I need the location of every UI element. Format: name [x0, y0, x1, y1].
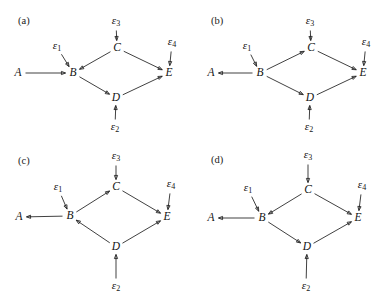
noise-symbol: ε	[54, 180, 58, 192]
noise-subscript: 1	[248, 187, 252, 196]
noise-subscript: 3	[310, 20, 314, 29]
node-a-D: D	[112, 92, 120, 104]
edge-D-to-E	[314, 222, 352, 244]
edge-B-to-D	[267, 76, 304, 94]
panel-b: (b)ABCDEε1ε2ε3ε4	[194, 0, 388, 149]
noise-c-e2: ε2	[112, 280, 121, 293]
edge-D-to-E	[317, 76, 356, 95]
noise-symbol: ε	[362, 35, 366, 47]
edge-C-to-E	[124, 51, 162, 70]
edge-B-to-C	[76, 191, 109, 212]
edge-C-to-B	[268, 194, 301, 214]
noise-a-e3: ε3	[112, 15, 121, 28]
noise-d-e1: ε1	[244, 182, 253, 195]
edge-B-to-D	[268, 222, 300, 243]
node-b-D: D	[306, 92, 314, 104]
noise-subscript: 1	[57, 45, 61, 54]
edge-e1-to-B	[251, 55, 257, 67]
arrowhead-C-to-E	[347, 211, 351, 214]
noise-d-e4: ε4	[358, 179, 367, 192]
node-c-A: A	[15, 211, 22, 223]
noise-b-e3: ε3	[306, 15, 315, 28]
node-c-C: C	[112, 181, 120, 193]
node-a-B: B	[69, 67, 76, 79]
node-b-C: C	[307, 42, 315, 54]
node-d-B: B	[258, 212, 265, 224]
noise-subscript: 1	[247, 45, 251, 54]
noise-b-e4: ε4	[362, 36, 371, 49]
noise-symbol: ε	[167, 177, 171, 189]
noise-symbol: ε	[112, 14, 116, 26]
noise-subscript: 1	[58, 186, 62, 195]
noise-b-e1: ε1	[243, 40, 252, 53]
noise-a-e2: ε2	[111, 121, 120, 134]
noise-symbol: ε	[302, 279, 306, 291]
dag-figure: (a)ABCDEε1ε2ε3ε4(b)ABCDEε1ε2ε3ε4(c)ABCDE…	[0, 0, 388, 298]
edge-D-to-E	[123, 76, 162, 95]
panel-d: (d)ABCDEε1ε2ε3ε4	[194, 149, 388, 298]
noise-a-e1: ε1	[53, 40, 62, 53]
edge-C-to-E	[122, 191, 160, 213]
node-a-C: C	[113, 42, 121, 54]
noise-subscript: 2	[115, 126, 119, 135]
arrowhead-B-to-D	[299, 91, 303, 94]
arrowhead-B-to-C	[300, 51, 304, 54]
noise-subscript: 2	[306, 285, 310, 294]
edge-C-to-E	[318, 51, 356, 70]
edge-C-to-E	[315, 194, 352, 215]
noise-subscript: 2	[309, 126, 313, 135]
node-a-A: A	[14, 67, 21, 79]
node-c-B: B	[66, 210, 73, 222]
noise-c-e4: ε4	[167, 178, 176, 191]
noise-subscript: 4	[172, 41, 176, 50]
node-c-D: D	[112, 241, 120, 253]
noise-symbol: ε	[305, 120, 309, 132]
edge-D-to-B	[76, 220, 110, 243]
node-d-C: C	[304, 184, 312, 196]
noise-subscript: 3	[308, 154, 312, 163]
noise-c-e1: ε1	[54, 181, 63, 194]
edge-e1-to-B	[61, 54, 69, 66]
edge-D-to-E	[122, 221, 160, 243]
panel-a: (a)ABCDEε1ε2ε3ε4	[0, 0, 194, 149]
noise-subscript: 4	[362, 184, 366, 193]
noise-symbol: ε	[111, 120, 115, 132]
arrowhead-D-to-E	[352, 76, 356, 79]
node-d-D: D	[303, 241, 311, 253]
noise-subscript: 3	[116, 155, 120, 164]
node-b-A: A	[207, 67, 214, 79]
edge-B-to-A	[27, 216, 63, 217]
panel-c: (c)ABCDEε1ε2ε3ε4	[0, 149, 194, 298]
noise-symbol: ε	[243, 39, 247, 51]
noise-c-e3: ε3	[112, 150, 121, 163]
edge-e1-to-B	[61, 196, 67, 209]
node-d-A: A	[207, 212, 214, 224]
arrowhead-C-to-E	[158, 67, 162, 70]
node-d-E: E	[354, 212, 361, 224]
noise-symbol: ε	[168, 35, 172, 47]
noise-d-e3: ε3	[304, 149, 313, 162]
edge-e2-to-D	[306, 255, 307, 279]
node-b-E: E	[359, 67, 366, 79]
noise-a-e4: ε4	[168, 36, 177, 49]
noise-symbol: ε	[304, 148, 308, 160]
arrowhead-D-to-E	[158, 76, 162, 79]
edge-C-to-B	[80, 52, 111, 70]
node-b-B: B	[256, 67, 263, 79]
node-a-E: E	[165, 67, 172, 79]
noise-symbol: ε	[112, 149, 116, 161]
arrowhead-C-to-E	[352, 67, 356, 70]
noise-subscript: 4	[171, 183, 175, 192]
edge-layer-c	[0, 149, 194, 298]
noise-b-e2: ε2	[305, 121, 314, 134]
noise-symbol: ε	[306, 14, 310, 26]
edge-e1-to-B	[252, 197, 259, 212]
node-c-E: E	[163, 211, 170, 223]
noise-symbol: ε	[53, 39, 57, 51]
edge-B-to-D	[79, 77, 109, 94]
noise-subscript: 4	[366, 41, 370, 50]
noise-subscript: 3	[116, 20, 120, 29]
noise-subscript: 2	[116, 285, 120, 294]
noise-d-e2: ε2	[302, 280, 311, 293]
noise-symbol: ε	[244, 181, 248, 193]
